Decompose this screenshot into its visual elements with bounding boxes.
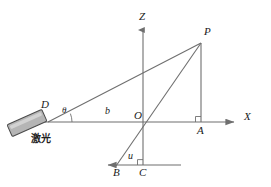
segment-label-b: b	[105, 106, 110, 116]
angle-label-theta: θ	[62, 106, 66, 115]
point-label-d: D	[41, 99, 49, 110]
axis-label-z: Z	[139, 11, 145, 22]
geometry-diagram: Z X P A O B C D b u θ 激光	[0, 0, 271, 187]
laser-caption: 激光	[31, 134, 51, 144]
angle-theta-arc	[70, 114, 72, 122]
point-label-b: B	[113, 167, 120, 178]
diagram-canvas	[0, 0, 271, 187]
point-label-o: O	[134, 110, 142, 121]
point-label-c: C	[139, 167, 146, 178]
axis-label-x: X	[244, 111, 251, 122]
right-angle-mark-A	[196, 117, 202, 123]
right-angle-mark-C	[138, 160, 144, 165]
laser-beam-line-DP	[48, 43, 201, 122]
line-BP	[116, 43, 201, 166]
point-label-p: P	[204, 26, 211, 37]
point-label-a: A	[197, 125, 204, 136]
segment-label-u: u	[128, 151, 133, 161]
